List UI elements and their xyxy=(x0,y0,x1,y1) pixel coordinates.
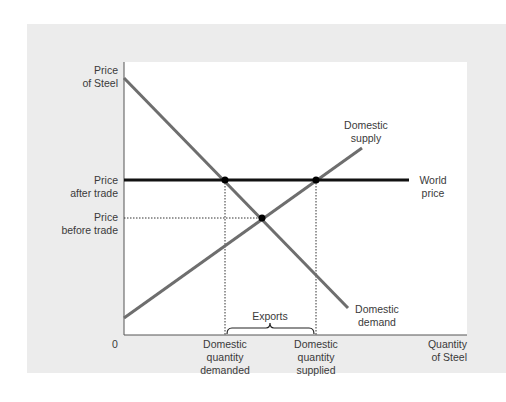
world-price-label: World price xyxy=(413,174,453,200)
qd-point xyxy=(222,177,229,184)
domestic-supply-curve xyxy=(124,148,362,318)
exports-label: Exports xyxy=(245,310,295,323)
equilibrium-point xyxy=(259,215,266,222)
price-after-trade-label: Price after trade xyxy=(70,174,118,200)
exports-brace xyxy=(227,323,314,334)
price-before-trade-label: Price before trade xyxy=(61,211,118,237)
x-axis-title: Quantity of Steel xyxy=(428,338,467,364)
domestic-demand-label: Domestic demand xyxy=(349,303,405,329)
y-axis-title: Price of Steel xyxy=(82,64,118,90)
domestic-supply-label: Domestic supply xyxy=(336,119,396,145)
qd-label: Domestic quantity demanded xyxy=(195,338,255,377)
domestic-demand-curve xyxy=(124,78,348,308)
qs-label: Domestic quantity supplied xyxy=(286,338,346,377)
origin-label: 0 xyxy=(112,338,118,351)
qs-point xyxy=(313,177,320,184)
